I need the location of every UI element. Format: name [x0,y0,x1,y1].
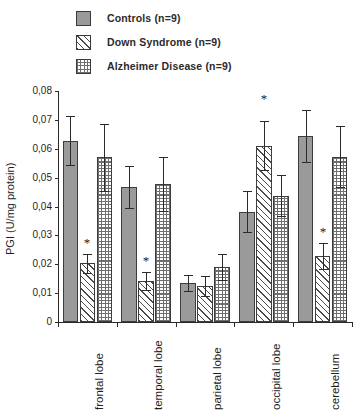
x-axis-tick-mark [58,322,59,327]
error-bar-cap [336,126,345,127]
error-bar-cap [125,208,134,209]
bar-chart: PGI (U/mg protein) 00,010,020,030,040,05… [0,0,357,418]
error-bar-cap [66,116,75,117]
error-bar-cap [277,175,286,176]
error-bar [247,191,248,233]
y-axis-tick-mark [55,207,58,208]
y-axis-tick-mark [55,120,58,121]
error-bar-cap [302,162,311,163]
error-bar-cap [201,276,210,277]
error-bar [87,254,88,273]
x-axis-category-label: occipital lobe [270,344,282,410]
error-bar-cap [159,157,168,158]
error-bar [323,243,324,268]
error-bar [281,175,282,216]
x-axis-tick-mark [234,322,235,327]
error-bar-cap [83,254,92,255]
x-axis-category-label: temporal lobe [152,340,164,410]
error-bar-cap [66,165,75,166]
y-axis-line [58,91,59,323]
error-bar-cap [319,269,328,270]
error-bar [306,110,307,162]
y-axis-tick-mark [55,293,58,294]
y-axis-tick-label: 0,04 [14,201,52,212]
error-bar-cap [142,272,151,273]
y-axis-tick-label: 0,01 [14,287,52,298]
error-bar [104,124,105,190]
y-axis-tick-mark [55,149,58,150]
error-bar [188,275,189,291]
error-bar-cap [184,275,193,276]
x-axis-category-label: frontal lobe [93,353,105,410]
error-bar-cap [218,280,227,281]
error-bar [163,157,164,210]
significance-asterisk: * [258,92,270,105]
y-axis-tick-mark [55,264,58,265]
error-bar-cap [277,216,286,217]
y-axis-tick-label: 0,06 [14,143,52,154]
error-bar-cap [100,191,109,192]
error-bar-cap [159,211,168,212]
error-bar-cap [100,124,109,125]
x-axis-category-label: parietal lobe [211,347,223,410]
x-axis-tick-mark [293,322,294,327]
y-axis-tick-label: 0,03 [14,229,52,240]
error-bar-cap [260,170,269,171]
error-bar [340,126,341,187]
y-axis-tick-label: 0,07 [14,114,52,125]
error-bar-cap [83,273,92,274]
x-axis-tick-mark [352,322,353,327]
error-bar-cap [260,121,269,122]
significance-asterisk: * [81,236,93,249]
error-bar-cap [243,232,252,233]
significance-asterisk: * [317,225,329,238]
error-bar-cap [336,187,345,188]
y-axis-tick-label: 0,05 [14,172,52,183]
error-bar [264,121,265,170]
x-axis-tick-mark [176,322,177,327]
error-bar [222,254,223,279]
error-bar-cap [243,191,252,192]
error-bar [146,272,147,289]
error-bar-cap [201,296,210,297]
error-bar-cap [218,254,227,255]
y-axis-tick-mark [55,91,58,92]
y-axis-tick-mark [55,178,58,179]
bar [256,146,272,322]
error-bar-cap [302,110,311,111]
error-bar-cap [125,166,134,167]
y-axis-tick-label: 0 [14,316,52,327]
x-axis-category-label: cerebellum [329,354,341,410]
error-bar-cap [142,290,151,291]
bar [298,136,314,322]
x-axis-line [58,322,352,323]
error-bar [205,276,206,296]
y-axis-tick-mark [55,235,58,236]
significance-asterisk: * [140,254,152,267]
bar [63,141,79,322]
y-axis-tick-label: 0,08 [14,85,52,96]
error-bar-cap [319,243,328,244]
error-bar [129,166,130,208]
y-axis-tick-label: 0,02 [14,258,52,269]
error-bar-cap [184,291,193,292]
error-bar [70,116,71,165]
x-axis-tick-mark [117,322,118,327]
